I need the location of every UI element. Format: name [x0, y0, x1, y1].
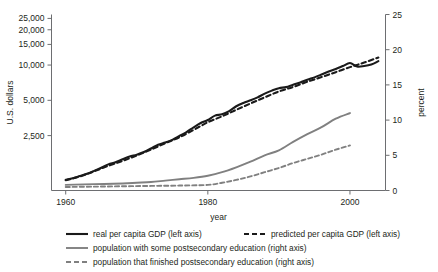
y-axis-right-title: percent — [416, 88, 426, 117]
y-axis-left-tick-label: 20,000 — [19, 25, 45, 35]
legend-label-0: real per capita GDP (left axis) — [93, 229, 202, 239]
y-axis-left-tick-label: 2,500 — [23, 131, 45, 141]
legend-label-3: population that finished postsecondary e… — [93, 257, 314, 267]
y-axis-left-tick-label: 15,000 — [19, 39, 45, 49]
chart-canvas: 2,5005,00010,00015,00020,00025,000051015… — [0, 0, 438, 272]
x-axis-tick-label: 1980 — [198, 197, 217, 207]
series-line-1 — [66, 57, 379, 180]
y-axis-left-tick-label: 10,000 — [19, 60, 45, 70]
y-axis-left-title: U.S. dollars — [5, 81, 15, 125]
y-axis-right-tick-label: 25 — [393, 10, 403, 20]
x-axis-tick-label: 2000 — [341, 197, 360, 207]
series-line-2 — [66, 113, 350, 185]
x-axis-title: year — [210, 212, 227, 222]
y-axis-right-tick-label: 0 — [393, 186, 398, 196]
y-axis-right-tick-label: 15 — [393, 80, 403, 90]
y-axis-right-tick-label: 10 — [393, 115, 403, 125]
legend-label-2: population with some postsecondary educa… — [93, 243, 307, 253]
chart-figure: 2,5005,00010,00015,00020,00025,000051015… — [0, 0, 438, 272]
y-axis-left-tick-label: 25,000 — [19, 13, 45, 23]
y-axis-left-tick-label: 5,000 — [23, 95, 45, 105]
x-axis-tick-label: 1960 — [56, 197, 75, 207]
series-line-3 — [66, 145, 350, 187]
legend-label-1: predicted per capita GDP (left axis) — [271, 229, 400, 239]
y-axis-right-tick-label: 5 — [393, 150, 398, 160]
y-axis-right-tick-label: 20 — [393, 45, 403, 55]
